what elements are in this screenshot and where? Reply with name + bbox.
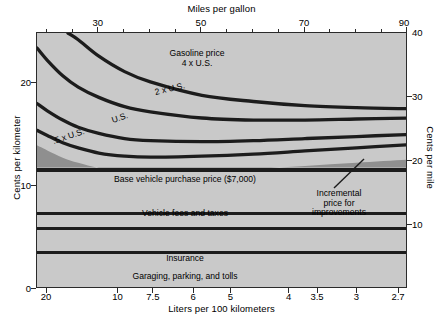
right-tick-30: 30	[412, 91, 423, 102]
chart-canvas	[37, 33, 407, 288]
band-label-fees: Vehicle fees and taxes	[142, 209, 228, 219]
right-axis-title: Cents per mile	[425, 108, 436, 208]
left-tick-20: 20	[20, 77, 31, 88]
band-label-garaging: Garaging, parking, and tolls	[132, 272, 237, 282]
bottom-tick-5: 5	[228, 291, 233, 302]
bottom-tick-10: 10	[112, 291, 123, 302]
bottom-tick-20: 20	[41, 291, 52, 302]
right-tick-10: 10	[412, 219, 423, 230]
top-tick-50: 50	[196, 17, 207, 28]
band-label-insurance: Insurance	[166, 254, 204, 264]
curve-5-x-u-s	[37, 130, 407, 157]
top-tick-30: 30	[93, 17, 104, 28]
plot-area: Gasoline price 4 x U.S. 2 x U.S. U.S. .5…	[36, 32, 407, 288]
bottom-tick-6: 6	[191, 291, 196, 302]
left-axis-title: Cents per kilometer	[11, 108, 22, 208]
wedge-label-line3: improvements	[312, 208, 366, 218]
curve-label-gasoline-price: Gasoline price 4 x U.S.	[170, 49, 225, 68]
bottom-tick-3.5: 3.5	[310, 291, 323, 302]
left-tick-0: 0	[26, 283, 31, 294]
right-tick-40: 40	[412, 27, 423, 38]
band-label-base-price: Base vehicle purchase price ($7,000)	[114, 175, 256, 185]
top-tick-90: 90	[399, 17, 410, 28]
figure: Miles per gallon Liters per 100 kilomete…	[0, 0, 443, 321]
bottom-tick-7.5: 7.5	[146, 291, 159, 302]
wedge-label-incremental-price: Incremental price for improvements	[312, 189, 366, 218]
left-tick-10: 10	[20, 180, 31, 191]
curve-label-gas-line2: 4 x U.S.	[170, 59, 225, 69]
bottom-tick-2.7: 2.7	[391, 291, 404, 302]
bottom-tick-3: 3	[354, 291, 359, 302]
bottom-axis-title: Liters per 100 kilometers	[0, 303, 443, 314]
curve-u-s	[37, 104, 407, 142]
curve-gasoline-price-4-x-u-s	[68, 33, 407, 109]
top-tick-70: 70	[299, 17, 310, 28]
top-axis-title: Miles per gallon	[0, 3, 443, 14]
right-tick-20: 20	[412, 155, 423, 166]
bottom-tick-4: 4	[286, 291, 291, 302]
